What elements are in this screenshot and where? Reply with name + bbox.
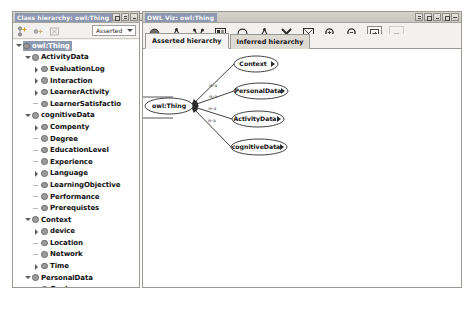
tree-item-device[interactable]: device [13, 226, 139, 238]
tree-item-personaldata[interactable]: PersonalData [13, 272, 139, 284]
tree-item-label: LearnerSatisfactio [50, 100, 121, 108]
graph-edge-label: is-a [209, 94, 217, 99]
tree-item-prerequistes[interactable]: Prerequistes [13, 202, 139, 214]
tree-item-language[interactable]: Language [13, 168, 139, 180]
tree-item-network[interactable]: Network [13, 249, 139, 261]
tree-item-compenty[interactable]: Compenty [13, 121, 139, 133]
tree-leaf-marker-icon [32, 179, 41, 191]
graph-node-label: cognitiveData [232, 143, 281, 151]
tree-item-learningobjective[interactable]: LearningObjective [13, 179, 139, 191]
chevron-right-icon[interactable] [32, 168, 41, 180]
class-node-icon [41, 135, 48, 142]
tree-item-experience[interactable]: Experience [13, 156, 139, 168]
graph-edge-label: is-a [208, 106, 216, 111]
tree-item-label: PersonalData [41, 274, 93, 282]
left-float-icon[interactable] [121, 13, 129, 21]
graph-node-root-owl-thing[interactable]: owl:Thing [145, 98, 193, 114]
tab-inferred-hierarchy[interactable]: Inferred hierarchy [230, 34, 311, 49]
class-node-icon [32, 274, 39, 281]
tree-leaf-marker-icon [32, 191, 41, 203]
tree-item-learnersatisfactio[interactable]: LearnerSatisfactio [13, 98, 139, 110]
owlviz-graph-canvas[interactable]: is-ais-ais-ais-aowl:ThingContextPersonal… [143, 49, 461, 287]
class-node-icon [41, 240, 48, 247]
class-node-icon [41, 263, 48, 270]
tree-item-performance[interactable]: Performance [13, 191, 139, 203]
owlviz-graph[interactable]: is-ais-ais-ais-aowl:ThingContextPersonal… [143, 49, 461, 287]
graph-node-cognitivedata[interactable]: cognitiveData [231, 139, 287, 155]
class-node-icon [41, 286, 48, 287]
chevron-right-icon[interactable] [32, 86, 41, 98]
tree-item-context[interactable]: Context [13, 214, 139, 226]
right-detach-icon[interactable] [415, 13, 423, 21]
tree-item-cognitivedata[interactable]: cognitiveData [13, 110, 139, 122]
delete-class-icon[interactable] [48, 25, 59, 36]
tree-item-label: device [50, 227, 75, 235]
class-node-icon [41, 124, 48, 131]
chevron-down-icon[interactable] [14, 40, 23, 52]
right-window-buttons [415, 13, 460, 21]
owlviz-title: OWL Viz: owl:Thing [145, 13, 217, 22]
graph-node-activitydata[interactable]: ActivityData [232, 111, 284, 127]
tree-item-label: Goal [50, 285, 67, 287]
add-sibling-class-icon[interactable] [32, 25, 43, 36]
graph-edge-label: is-a [209, 83, 217, 88]
tree-item-label: Network [50, 250, 83, 258]
class-node-icon [41, 182, 48, 189]
tree-item-label: Experience [50, 158, 93, 166]
tree-leaf-marker-icon [32, 98, 41, 110]
tree-item-learneractivity[interactable]: LearnerActivity [13, 86, 139, 98]
tree-item-interaction[interactable]: Interaction [13, 75, 139, 87]
tree-item-label: Prerequistes [50, 204, 99, 212]
tree-item-educationlevel[interactable]: EducationLevel [13, 144, 139, 156]
class-node-icon [41, 77, 48, 84]
tree-item-label: Degree [50, 135, 78, 143]
tree-item-evaluationlog[interactable]: EvaluationLog [13, 63, 139, 75]
class-node-icon [32, 112, 39, 119]
class-node-icon [41, 193, 48, 200]
tree-item-label: LearnerActivity [50, 88, 109, 96]
right-minimize-icon[interactable] [433, 13, 441, 21]
class-hierarchy-panel: Class hierarchy: owl:Thing [12, 11, 140, 288]
class-node-icon [41, 170, 48, 177]
tree-item-owl-thing[interactable]: owl:Thing [13, 40, 139, 52]
tree-item-label: Language [50, 169, 88, 177]
chevron-down-icon[interactable] [23, 214, 32, 226]
graph-node-context[interactable]: Context [234, 56, 278, 72]
class-node-icon [32, 54, 39, 61]
right-float-icon[interactable] [424, 13, 432, 21]
class-tree[interactable]: owl:ThingActivityDataEvaluationLogIntera… [13, 40, 139, 287]
graph-node-personaldata[interactable]: PersonalData [234, 83, 288, 99]
chevron-down-icon[interactable] [23, 110, 32, 122]
tree-item-goal[interactable]: Goal [13, 283, 139, 287]
tree-item-label: Compenty [50, 123, 89, 131]
chevron-right-icon[interactable] [32, 75, 41, 87]
chevron-down-icon [127, 29, 133, 32]
left-detach-icon[interactable] [112, 13, 120, 21]
class-node-icon [41, 66, 48, 73]
chevron-right-icon[interactable] [32, 63, 41, 75]
chevron-down-icon[interactable] [23, 52, 32, 64]
tree-item-label: owl:Thing [32, 42, 70, 50]
right-maximize-icon[interactable] [442, 13, 450, 21]
chevron-down-icon[interactable] [23, 272, 32, 284]
chevron-right-icon[interactable] [32, 260, 41, 272]
chevron-right-icon[interactable] [32, 121, 41, 133]
chevron-right-icon[interactable] [32, 226, 41, 238]
add-subclass-icon[interactable] [16, 25, 27, 36]
tree-item-location[interactable]: Location [13, 237, 139, 249]
tree-item-activitydata[interactable]: ActivityData [13, 52, 139, 64]
left-minimize-icon[interactable] [130, 13, 138, 21]
class-node-icon [41, 147, 48, 154]
tree-item-time[interactable]: Time [13, 260, 139, 272]
class-hierarchy-titlebar: Class hierarchy: owl:Thing [13, 12, 139, 23]
tree-item-degree[interactable]: Degree [13, 133, 139, 145]
owlviz-tabs: Asserted hierarchy Inferred hierarchy [143, 34, 461, 49]
reasoner-select[interactable]: Asserted [92, 25, 136, 36]
right-close-icon[interactable] [451, 13, 459, 21]
tree-item-label: Context [41, 216, 71, 224]
graph-node-label: PersonalData [235, 87, 282, 94]
tab-asserted-hierarchy[interactable]: Asserted hierarchy [145, 33, 229, 49]
tree-leaf-marker-icon [32, 283, 41, 287]
owlviz-titlebar: OWL Viz: owl:Thing [143, 12, 461, 23]
class-node-icon [23, 43, 30, 50]
